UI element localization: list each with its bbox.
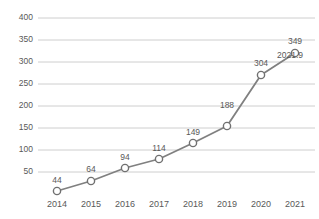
data-label-2020: 304: [254, 58, 268, 68]
data-point-2018[interactable]: [189, 139, 196, 146]
chart-canvas: 400 350 300 250 200 150 100 50 44 64 94 …: [0, 0, 319, 219]
y-tick-label-150: 150: [19, 122, 33, 132]
data-label-2021: 349: [288, 36, 302, 46]
x-tick-label-2020: 2020: [251, 199, 271, 209]
annotation-2021-9: 2021.9: [277, 50, 303, 60]
data-point-2020[interactable]: [257, 71, 264, 78]
y-tick-label-50: 50: [24, 166, 34, 176]
data-label-2014: 44: [52, 175, 62, 185]
y-tick-label-100: 100: [19, 144, 33, 154]
data-point-2019[interactable]: [223, 122, 230, 129]
data-point-2016[interactable]: [121, 164, 128, 171]
data-point-2017[interactable]: [155, 155, 162, 162]
x-tick-label-2018: 2018: [183, 199, 203, 209]
y-tick-label-400: 400: [19, 12, 33, 22]
data-label-2017: 114: [152, 143, 166, 153]
y-tick-label-300: 300: [19, 56, 33, 66]
data-label-2018: 149: [186, 127, 200, 137]
data-label-2019: 188: [220, 100, 234, 110]
x-tick-label-2021: 2021: [285, 199, 305, 209]
y-tick-label-350: 350: [19, 34, 33, 44]
x-tick-label-2016: 2016: [115, 199, 135, 209]
x-tick-label-2017: 2017: [149, 199, 169, 209]
x-tick-label-2019: 2019: [217, 199, 237, 209]
y-axis-tick-labels: 400 350 300 250 200 150 100 50: [19, 12, 33, 176]
data-point-2014[interactable]: [53, 187, 60, 194]
gridlines: [38, 18, 315, 172]
line-chart: 400 350 300 250 200 150 100 50 44 64 94 …: [0, 0, 319, 219]
data-point-2015[interactable]: [87, 177, 94, 184]
data-label-2016: 94: [120, 152, 130, 162]
data-label-2015: 64: [86, 164, 96, 174]
x-axis-tick-labels: 2014 2015 2016 2017 2018 2019 2020 2021: [47, 199, 305, 209]
y-tick-label-200: 200: [19, 100, 33, 110]
data-point-labels: 44 64 94 114 149 188 304 349: [52, 36, 302, 185]
y-tick-label-250: 250: [19, 78, 33, 88]
x-tick-label-2014: 2014: [47, 199, 67, 209]
x-tick-label-2015: 2015: [81, 199, 101, 209]
